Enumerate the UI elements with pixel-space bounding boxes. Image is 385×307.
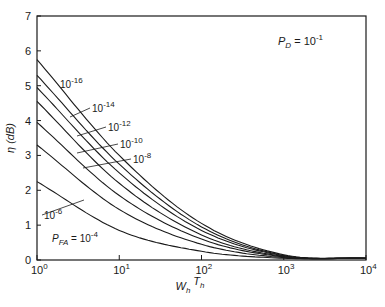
x-tick-label: 100 [31,262,48,276]
x-tick-label: 103 [278,262,295,276]
y-tick-label: 1 [25,219,31,231]
y-axis-label: η (dB) [4,123,16,153]
curve-pfa-14 [37,75,366,258]
curve-label-pfa-14: 10-14 [92,100,115,114]
curve-labels: 10-1610-1410-1210-1010-810-6PFA = 10-4 [42,76,152,247]
curve-label-pfa-16: 10-16 [60,76,83,90]
y-tick-label: 7 [25,10,31,22]
pd-annotation: PD = 10-1 [278,33,324,50]
y-tick-label: 3 [25,149,31,161]
curve-label-pfa-10: 10-10 [120,136,143,150]
curve-label-pfa-4: PFA = 10-4 [52,230,99,247]
x-axis-label: WhTh [175,275,205,295]
x-tick-label: 102 [196,262,213,276]
y-tick-label: 6 [25,45,31,57]
y-tick-label: 4 [25,115,31,127]
curve-pfa-4 [37,182,366,259]
chart: 01234567 100101102103104 10-1610-1410-12… [0,0,385,307]
curve-label-pfa-8: 10-8 [133,151,152,165]
y-tick-label: 5 [25,80,31,92]
curve-label-pfa-6: 10-6 [44,207,63,221]
y-axis-ticks: 01234567 [25,10,41,266]
x-tick-label: 101 [113,262,130,276]
y-tick-label: 2 [25,184,31,196]
curves [37,60,366,259]
x-tick-label: 104 [360,262,377,276]
curve-pfa-16 [37,60,366,259]
curve-label-pfa-12: 10-12 [108,119,131,133]
